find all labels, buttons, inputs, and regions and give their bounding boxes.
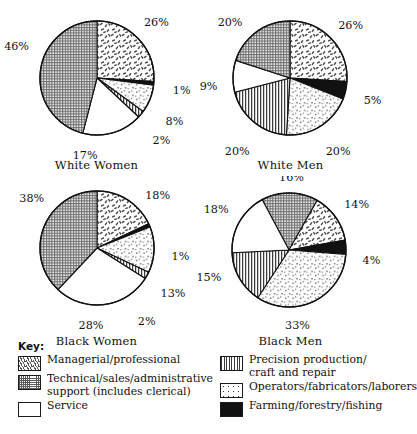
legend-label-farming: Farming/forestry/fishing — [249, 400, 382, 413]
swatch-precision-icon — [220, 356, 243, 371]
legend-label-service: Service — [47, 400, 88, 413]
slice-label-precision: 20% — [225, 145, 250, 158]
legend-label-operators: Operators/fabricators/laborers — [249, 381, 417, 394]
slice-label-service: 28% — [79, 319, 104, 332]
legend-item-farming: Farming/forestry/fishing — [220, 400, 406, 417]
pie-chart-black-men: 16%14%4%33%15%18% Black Men — [194, 176, 387, 350]
slice-label-managerial: 14% — [344, 198, 369, 211]
pie-chart-white-men: 26%5%20%20%9%20% White Men — [194, 0, 387, 174]
legend-column-right: Precision production/ craft and repair O… — [220, 354, 406, 419]
slice-label-farming: 4% — [363, 254, 381, 267]
pie-slice-managerial — [97, 21, 154, 82]
legend-label-technical: Technical/sales/administrative support (… — [47, 373, 213, 398]
slice-label-precision: 2% — [138, 315, 156, 328]
swatch-managerial-icon — [18, 356, 41, 371]
legend-item-technical: Technical/sales/administrative support (… — [18, 373, 218, 398]
slice-label-precision: 15% — [196, 271, 221, 284]
slice-label-technical: 16% — [279, 176, 304, 184]
slice-label-managerial: 18% — [145, 189, 170, 202]
slice-label-farming: 1% — [172, 250, 190, 263]
slice-label-technical: 38% — [19, 192, 44, 205]
legend: Key: Managerial/professional Technical/s… — [18, 340, 378, 430]
legend-column-left: Managerial/professional Technical/sales/… — [18, 354, 218, 419]
slice-label-technical: 46% — [4, 40, 29, 53]
slice-label-farming: 1% — [173, 84, 191, 97]
pie-svg-white-men: 26%5%20%20%9%20% — [194, 0, 387, 174]
pie-chart-white-women: 26%1%8%2%17%46% White Women — [0, 0, 193, 174]
slice-label-operators: 13% — [161, 287, 186, 300]
slice-label-precision: 2% — [153, 134, 171, 147]
legend-item-service: Service — [18, 400, 218, 417]
slice-label-managerial: 26% — [338, 19, 363, 32]
swatch-farming-icon — [220, 402, 243, 417]
legend-title: Key: — [18, 340, 44, 352]
slice-label-service: 18% — [204, 203, 229, 216]
legend-label-precision: Precision production/ craft and repair — [249, 354, 367, 379]
chart-title-white-women: White Women — [0, 158, 193, 172]
legend-item-operators: Operators/fabricators/laborers — [220, 381, 406, 398]
pie-svg-white-women: 26%1%8%2%17%46% — [0, 0, 193, 174]
chart-title-white-men: White Men — [194, 158, 387, 172]
slice-label-service: 9% — [200, 80, 218, 93]
slice-label-operators: 20% — [326, 145, 351, 158]
pie-svg-black-men: 16%14%4%33%15%18% — [194, 176, 387, 350]
pie-svg-black-women: 18%1%13%2%28%38% — [0, 176, 193, 350]
legend-item-managerial: Managerial/professional — [18, 354, 218, 371]
swatch-service-icon — [18, 402, 41, 417]
slice-label-operators: 8% — [166, 115, 184, 128]
legend-item-precision: Precision production/ craft and repair — [220, 354, 406, 379]
slice-label-technical: 20% — [218, 16, 243, 29]
slice-label-operators: 33% — [285, 319, 310, 332]
slice-label-farming: 5% — [364, 94, 382, 107]
swatch-technical-icon — [18, 375, 41, 390]
slice-label-managerial: 26% — [144, 16, 169, 29]
swatch-operators-icon — [220, 383, 243, 398]
legend-label-managerial: Managerial/professional — [47, 354, 180, 367]
pie-chart-black-women: 18%1%13%2%28%38% Black Women — [0, 176, 193, 350]
